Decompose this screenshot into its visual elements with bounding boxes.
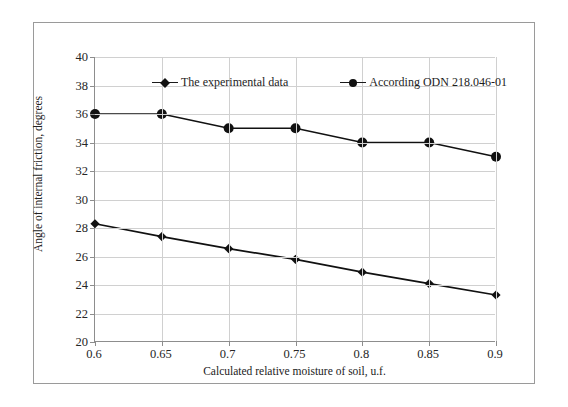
y-axis-tick-label: 28 — [76, 222, 89, 235]
y-axis-tick — [90, 114, 95, 115]
x-axis-tick — [95, 341, 96, 346]
diamond-marker-icon — [160, 78, 170, 88]
x-axis-tick-label: 0.9 — [487, 348, 503, 361]
x-axis-tick-label: 0.7 — [220, 348, 236, 361]
y-axis-tick-label: 32 — [76, 165, 89, 178]
circle-marker-icon — [349, 79, 357, 87]
gridline-vertical — [162, 57, 163, 341]
x-axis-tick-label: 0.65 — [150, 348, 172, 361]
legend-label-experimental: The experimental data — [181, 75, 288, 90]
y-axis-tick — [90, 57, 95, 58]
x-axis-title: Calculated relative moisture of soil, u.… — [94, 365, 495, 377]
x-axis-tick — [362, 341, 363, 346]
gridline-vertical — [229, 57, 230, 341]
y-axis-tick-label: 24 — [76, 279, 89, 292]
y-axis-tick — [90, 143, 95, 144]
legend-entry-experimental[interactable]: The experimental data — [152, 75, 288, 90]
x-axis-tick-labels: 0.60.650.70.750.80.850.9 — [94, 348, 495, 364]
x-axis-tick-label: 0.6 — [86, 348, 102, 361]
legend-label-odn: According ODN 218.046-01 — [369, 75, 507, 90]
y-axis-tick-label: 30 — [76, 194, 89, 207]
data-point-diamond[interactable] — [90, 219, 99, 228]
y-axis-tick — [90, 228, 95, 229]
x-axis-tick — [496, 341, 497, 346]
plot-area — [94, 57, 495, 342]
legend-line-odn — [340, 82, 366, 83]
y-axis-tick — [90, 314, 95, 315]
legend-entry-odn[interactable]: According ODN 218.046-01 — [340, 75, 507, 90]
y-axis-tick-label: 34 — [76, 137, 89, 150]
x-axis-tick-label: 0.8 — [354, 348, 370, 361]
line-chart: 2022242628303234363840 0.60.650.70.750.8… — [0, 0, 568, 407]
x-axis-tick — [296, 341, 297, 346]
x-axis-tick-label: 0.75 — [284, 348, 306, 361]
y-axis-tick-label: 36 — [76, 108, 89, 121]
y-axis-tick — [90, 86, 95, 87]
gridline-vertical — [429, 57, 430, 341]
gridline-vertical — [296, 57, 297, 341]
chart-legend: The experimental data According ODN 218.… — [152, 73, 488, 91]
y-axis-tick-label: 22 — [76, 308, 89, 321]
y-axis-tick-label: 40 — [76, 51, 89, 64]
x-axis-tick — [229, 341, 230, 346]
y-axis-tick-label: 26 — [76, 251, 89, 264]
gridline-vertical — [362, 57, 363, 341]
y-axis-title: Angle of internal friction, degrees — [32, 74, 44, 274]
x-axis-tick — [162, 341, 163, 346]
y-axis-tick-label: 38 — [76, 80, 89, 93]
x-axis-tick-label: 0.85 — [417, 348, 439, 361]
y-axis-tick — [90, 285, 95, 286]
gridline-vertical — [496, 57, 497, 341]
y-axis-tick — [90, 257, 95, 258]
y-axis-tick — [90, 200, 95, 201]
legend-line-experimental — [152, 82, 178, 83]
y-axis-tick — [90, 171, 95, 172]
y-axis-tick-labels: 2022242628303234363840 — [58, 57, 88, 342]
x-axis-tick — [429, 341, 430, 346]
